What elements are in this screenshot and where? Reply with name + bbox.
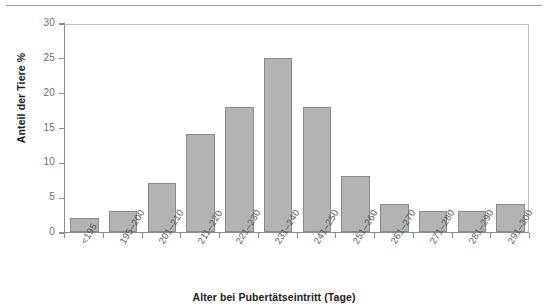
x-tick-mark: [180, 233, 181, 238]
x-tick-mark: [374, 233, 375, 238]
x-tick-mark: [258, 233, 259, 238]
y-tick-label: 25: [0, 52, 64, 66]
x-tick-mark: [529, 233, 530, 238]
y-axis-title: Anteil der Tiere %: [15, 33, 27, 163]
bar-series: [65, 25, 528, 232]
bar: [264, 58, 292, 232]
x-tick-mark: [64, 233, 65, 238]
y-tick-label: 30: [0, 17, 64, 31]
x-tick-mark: [103, 233, 104, 238]
y-tick-label: 20: [0, 87, 64, 101]
x-tick-mark: [297, 233, 298, 238]
chart-figure: 051015202530 Anteil der Tiere % <195195–…: [0, 0, 548, 308]
plot-area: [64, 24, 529, 233]
y-tick-label: 0: [0, 226, 64, 240]
y-tick-label: 5: [0, 191, 64, 205]
x-tick-mark: [490, 233, 491, 238]
x-tick-mark: [452, 233, 453, 238]
y-tick-label: 10: [0, 156, 64, 170]
x-tick-mark: [219, 233, 220, 238]
x-tick-mark: [413, 233, 414, 238]
x-axis-title: Alter bei Pubertätseintritt (Tage): [0, 291, 548, 303]
header-divider: [6, 5, 542, 6]
x-tick-mark: [142, 233, 143, 238]
y-tick-label: 15: [0, 122, 64, 136]
x-tick-mark: [335, 233, 336, 238]
